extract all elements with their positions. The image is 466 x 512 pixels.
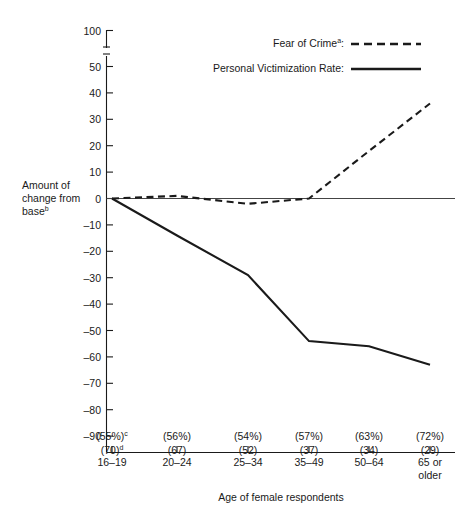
x-tick-label-2: 25–34 bbox=[233, 456, 262, 468]
legend-label-fear-of-crime: Fear of Crimea: bbox=[273, 37, 344, 49]
y-axis-title-base: base bbox=[22, 205, 45, 217]
y-axis-title-line1: Amount of bbox=[22, 179, 70, 191]
annotation-percent-2: (54%) bbox=[234, 430, 262, 442]
y-tick-label-m70: –70 bbox=[83, 377, 101, 389]
annotation-rate-0: (70)d bbox=[101, 444, 124, 456]
y-tick-label-10: 10 bbox=[89, 166, 101, 178]
line-chart-svg: 100 50 40 30 20 10 0 –10 –20 –30 –40 –50… bbox=[0, 0, 466, 512]
annotation-rate-3: (37) bbox=[300, 444, 319, 456]
annotation-percent-3: (57%) bbox=[295, 430, 323, 442]
annotation-rate-row: (70)d (67) (52) (37) (34) (29) bbox=[101, 444, 440, 456]
annotation-percent-5: (72%) bbox=[416, 430, 444, 442]
legend: Fear of Crimea: Personal Victimization R… bbox=[213, 37, 421, 74]
annotation-percent-1: (56%) bbox=[163, 430, 191, 442]
y-tick-label-40: 40 bbox=[89, 87, 101, 99]
y-tick-marks bbox=[107, 67, 114, 437]
x-tick-label-0: 16–19 bbox=[97, 456, 126, 468]
y-axis-title-line2: change from bbox=[22, 192, 81, 204]
chart-container: 100 50 40 30 20 10 0 –10 –20 –30 –40 –50… bbox=[0, 0, 466, 512]
y-tick-label-m30: –30 bbox=[83, 272, 101, 284]
x-tick-label-5-line2: older bbox=[418, 469, 442, 481]
y-tick-label-m10: –10 bbox=[83, 219, 101, 231]
y-tick-label-m40: –40 bbox=[83, 298, 101, 310]
y-axis-title-line3: baseb bbox=[22, 205, 49, 217]
series-line-fear-of-crime bbox=[112, 104, 430, 204]
y-axis-title: Amount of change from baseb bbox=[22, 179, 81, 217]
y-tick-label-30: 30 bbox=[89, 113, 101, 125]
annotation-percent-0: (55%)c bbox=[96, 430, 128, 442]
x-axis-title: Age of female respondents bbox=[218, 491, 344, 503]
y-tick-label-100: 100 bbox=[83, 25, 101, 37]
annotation-rate-4: (34) bbox=[360, 444, 379, 456]
y-tick-label-50: 50 bbox=[89, 61, 101, 73]
annotation-percent-4: (63%) bbox=[355, 430, 383, 442]
y-tick-label-m50: –50 bbox=[83, 325, 101, 337]
y-tick-label-m80: –80 bbox=[83, 404, 101, 416]
x-tick-label-5: 65 or bbox=[418, 456, 442, 468]
y-tick-label-0: 0 bbox=[95, 193, 101, 205]
y-tick-label-m60: –60 bbox=[83, 351, 101, 363]
x-tick-label-4: 50–64 bbox=[354, 456, 383, 468]
y-tick-label-m20: –20 bbox=[83, 245, 101, 257]
annotation-rate-5: (29) bbox=[421, 444, 440, 456]
series-line-personal-victimization-rate bbox=[112, 199, 430, 365]
y-tick-label-20: 20 bbox=[89, 140, 101, 152]
y-axis-title-superscript: b bbox=[45, 205, 49, 212]
y-tick-labels: 100 50 40 30 20 10 0 –10 –20 –30 –40 –50… bbox=[83, 25, 101, 443]
x-axis bbox=[107, 446, 456, 453]
legend-label-personal-victimization-rate: Personal Victimization Rate: bbox=[213, 62, 344, 74]
x-tick-labels: 16–19 20–24 25–34 35–49 50–64 65 or olde… bbox=[97, 456, 442, 481]
x-tick-label-3: 35–49 bbox=[294, 456, 323, 468]
annotation-rate-2: (52) bbox=[239, 444, 258, 456]
annotation-percent-row: (55%)c (56%) (54%) (57%) (63%) (72%) bbox=[96, 430, 444, 442]
x-tick-label-1: 20–24 bbox=[162, 456, 191, 468]
annotation-rate-1: (67) bbox=[168, 444, 187, 456]
